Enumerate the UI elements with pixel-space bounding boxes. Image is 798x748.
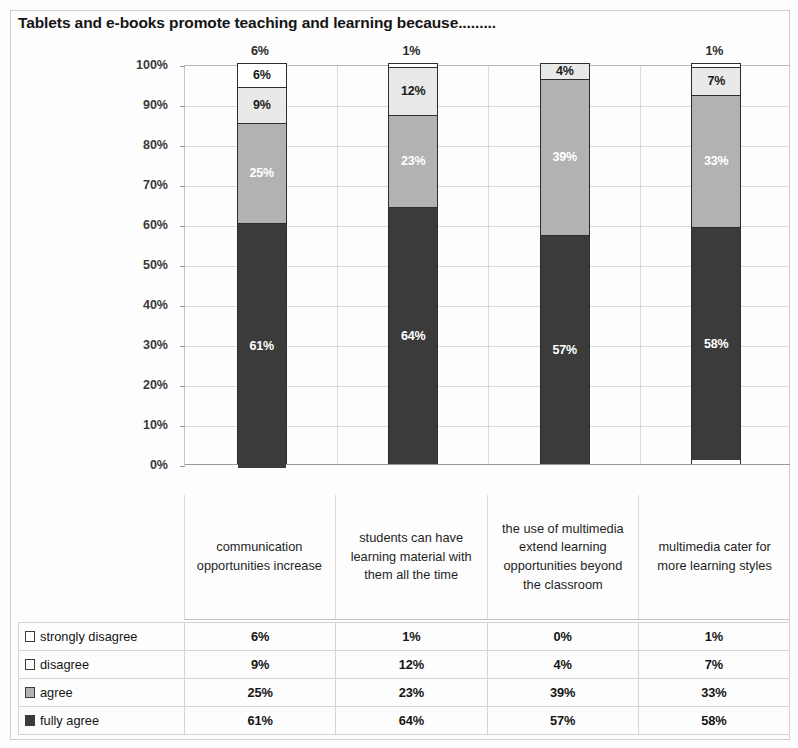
bar-top-label: 6% xyxy=(225,44,295,58)
y-axis-tick-90: 90% xyxy=(143,98,168,112)
gray-square-icon xyxy=(25,687,35,698)
table-value-cell: 39% xyxy=(487,679,638,707)
y-axis-tickmark xyxy=(180,306,185,307)
y-axis-tickmark xyxy=(180,186,185,187)
y-axis-tick-20: 20% xyxy=(143,378,168,392)
category-axis-band: communication opportunities increasestud… xyxy=(184,495,790,620)
y-axis-tick-50: 50% xyxy=(143,258,168,272)
category-separator xyxy=(640,66,641,464)
bar-segment-label: 61% xyxy=(250,340,274,353)
bar-segment-agree[interactable]: 23% xyxy=(389,116,437,208)
stacked-bar[interactable]: 12%23%64% xyxy=(388,63,438,464)
table-value-cell: 58% xyxy=(638,707,789,735)
table-value-cell: 4% xyxy=(487,651,638,679)
y-axis-tick-60: 60% xyxy=(143,218,168,232)
y-axis-tick-labels: 100%90%80%70%60%50%40%30%20%10%0% xyxy=(96,65,176,465)
dark-square-icon xyxy=(25,715,35,726)
y-axis-tick-10: 10% xyxy=(143,418,168,432)
table-row: agree25%23%39%33% xyxy=(19,679,790,707)
bar-segment-disagree[interactable]: 12% xyxy=(389,68,437,116)
bar-segment-fully-agree[interactable]: 61% xyxy=(238,224,286,468)
bar-segment-label: 9% xyxy=(253,99,271,112)
bar-segment-label: 58% xyxy=(704,338,728,351)
table-value-cell: 1% xyxy=(336,623,487,651)
legend-key-cell: strongly disagree xyxy=(19,623,185,651)
category-label-4: multimedia cater for more learning style… xyxy=(639,495,790,619)
table-value-cell: 0% xyxy=(487,623,638,651)
table-value-cell: 6% xyxy=(185,623,336,651)
category-separator xyxy=(488,66,489,464)
plot-area: 6%9%25%61%12%23%64%4%39%57%7%33%58% xyxy=(184,65,790,465)
y-axis-tickmark xyxy=(180,466,185,467)
y-axis-tickmark xyxy=(180,346,185,347)
y-axis-tick-100: 100% xyxy=(136,58,168,72)
legend-key-cell: fully agree xyxy=(19,707,185,735)
category-separator xyxy=(337,66,338,464)
stacked-bar[interactable]: 7%33%58% xyxy=(691,63,741,464)
table-value-cell: 23% xyxy=(336,679,487,707)
y-axis-tick-30: 30% xyxy=(143,338,168,352)
y-axis-tick-40: 40% xyxy=(143,298,168,312)
bar-segment-disagree[interactable]: 4% xyxy=(541,64,589,80)
y-axis-tick-0: 0% xyxy=(150,458,168,472)
y-axis-tickmark xyxy=(180,386,185,387)
bar-segment-agree[interactable]: 25% xyxy=(238,124,286,224)
legend-key-label: disagree xyxy=(40,657,89,672)
table-value-cell: 64% xyxy=(336,707,487,735)
light-square-icon xyxy=(25,659,35,670)
bar-top-label: 1% xyxy=(679,44,749,58)
legend-key-label: fully agree xyxy=(40,713,99,728)
legend-key-label: agree xyxy=(40,685,73,700)
bar-segment-label: 7% xyxy=(707,75,725,88)
legend-key-cell: agree xyxy=(19,679,185,707)
bar-segment-agree[interactable]: 33% xyxy=(692,96,740,228)
category-label-1: communication opportunities increase xyxy=(184,495,336,619)
bar-segment-label: 12% xyxy=(401,85,425,98)
table-row: disagree9%12%4%7% xyxy=(19,651,790,679)
table-value-cell: 33% xyxy=(638,679,789,707)
bar-segment-strongly-disagree[interactable]: 6% xyxy=(238,64,286,88)
y-axis-tickmark xyxy=(180,426,185,427)
category-label-2: students can have learning material with… xyxy=(336,495,488,619)
bar-segment-disagree[interactable]: 7% xyxy=(692,68,740,96)
table-value-cell: 12% xyxy=(336,651,487,679)
y-axis-tickmark xyxy=(180,146,185,147)
bar-segment-agree[interactable]: 39% xyxy=(541,80,589,236)
table-value-cell: 25% xyxy=(185,679,336,707)
page-title: Tablets and e-books promote teaching and… xyxy=(18,14,496,32)
white-square-icon xyxy=(25,631,35,642)
table-row: fully agree61%64%57%58% xyxy=(19,707,790,735)
table-value-cell: 57% xyxy=(487,707,638,735)
y-axis-tickmark xyxy=(180,106,185,107)
table-row: strongly disagree6%1%0%1% xyxy=(19,623,790,651)
bar-top-label: 1% xyxy=(376,44,446,58)
bar-segment-label: 4% xyxy=(556,65,574,78)
data-table: strongly disagree6%1%0%1%disagree9%12%4%… xyxy=(18,622,790,735)
category-label-3: the use of multimedia extend learning op… xyxy=(488,495,640,619)
y-axis-tickmark xyxy=(180,266,185,267)
plot-wrapper: 100%90%80%70%60%50%40%30%20%10%0% 6%9%25… xyxy=(0,40,798,495)
bar-segment-label: 33% xyxy=(704,155,728,168)
bar-segment-disagree[interactable]: 9% xyxy=(238,88,286,124)
y-axis-tickmark xyxy=(180,226,185,227)
stacked-bar[interactable]: 6%9%25%61% xyxy=(237,63,287,464)
bar-segment-fully-agree[interactable]: 64% xyxy=(389,208,437,464)
bar-segment-label: 6% xyxy=(253,69,271,82)
legend-key-label: strongly disagree xyxy=(40,629,137,644)
stacked-bar[interactable]: 4%39%57% xyxy=(540,63,590,464)
y-axis-tick-70: 70% xyxy=(143,178,168,192)
bar-segment-label: 64% xyxy=(401,330,425,343)
table-value-cell: 7% xyxy=(638,651,789,679)
table-value-cell: 1% xyxy=(638,623,789,651)
legend-key-cell: disagree xyxy=(19,651,185,679)
bar-segment-label: 23% xyxy=(401,155,425,168)
y-axis-tick-80: 80% xyxy=(143,138,168,152)
bar-segment-label: 39% xyxy=(553,151,577,164)
chart-page: Tablets and e-books promote teaching and… xyxy=(0,0,798,748)
y-axis-tickmark xyxy=(180,66,185,67)
bar-segment-fully-agree[interactable]: 58% xyxy=(692,228,740,460)
bar-segment-label: 25% xyxy=(250,167,274,180)
bar-segment-label: 57% xyxy=(553,344,577,357)
bar-segment-fully-agree[interactable]: 57% xyxy=(541,236,589,464)
table-value-cell: 9% xyxy=(185,651,336,679)
